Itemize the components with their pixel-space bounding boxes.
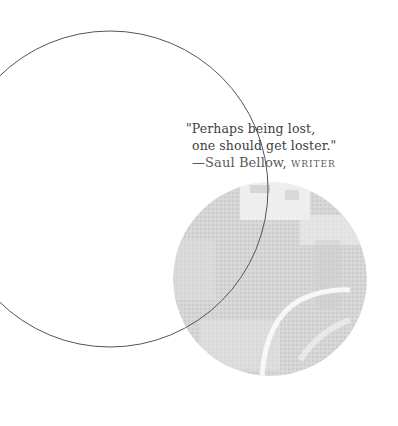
textured-disc (173, 180, 367, 378)
em-dash: — (192, 155, 205, 170)
author-name: Saul Bellow, (205, 155, 287, 170)
quote-line-1: "Perhaps being lost, (186, 120, 336, 137)
quote-line-2: one should get loster." (186, 137, 336, 154)
decorative-illustration (0, 0, 398, 426)
quote-block: "Perhaps being lost, one should get lost… (186, 120, 336, 173)
author-role: WRITER (291, 159, 336, 169)
attribution: —Saul Bellow, WRITER (186, 154, 336, 173)
